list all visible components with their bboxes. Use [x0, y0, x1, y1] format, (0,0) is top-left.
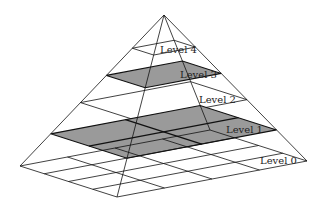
- level-4-label: Level 4: [160, 44, 197, 55]
- level-fills: [20, 40, 307, 197]
- level-3-label: Level 3: [180, 69, 217, 80]
- level-2-label: Level 2: [199, 94, 236, 105]
- edge-front: [117, 15, 164, 197]
- pyramid-diagram: Level 4 Level 3 Level 2 Level 1 Level 0: [0, 0, 322, 213]
- level-0-label: Level 0: [260, 155, 297, 166]
- grid-line: [163, 139, 260, 170]
- level-1-label: Level 1: [226, 124, 263, 135]
